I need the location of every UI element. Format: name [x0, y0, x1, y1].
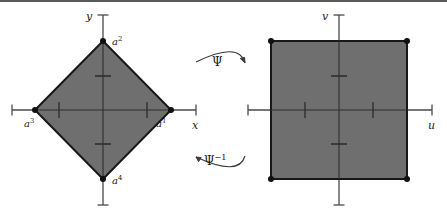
figure-canvas: y x a2 a1 a3 a4 v u Ψ Ψ−1 — [0, 0, 447, 218]
vertex-label-a3-sup: 3 — [30, 117, 34, 125]
vertex-dot-a1 — [168, 107, 174, 113]
vertex-label-a2-sup: 2 — [118, 35, 122, 43]
vertex-label-a1: a1 — [156, 118, 166, 129]
vertex-dot-a4 — [100, 176, 106, 182]
inverse-map-label-sup: −1 — [215, 152, 227, 162]
vertex-dot-a2 — [100, 38, 106, 44]
figure-vector-layer — [0, 0, 447, 218]
vertex-label-a1-sup: 1 — [162, 117, 166, 125]
inverse-map-label-base: Ψ — [204, 154, 215, 168]
axis-label-u: u — [428, 120, 435, 131]
vertex-dot-top-left — [268, 38, 274, 44]
vertex-label-a2: a2 — [112, 36, 122, 47]
vertex-dot-bottom-left — [268, 176, 274, 182]
vertex-dot-bottom-right — [404, 176, 410, 182]
vertex-label-a4: a4 — [112, 175, 122, 186]
axis-label-y: y — [86, 11, 92, 22]
forward-map-arrowhead — [240, 57, 245, 63]
vertex-dot-top-right — [404, 38, 410, 44]
axis-label-x: x — [192, 120, 198, 131]
vertex-dot-a3 — [32, 107, 38, 113]
forward-map-label: Ψ — [212, 54, 223, 68]
axis-label-v: v — [322, 11, 328, 22]
vertex-label-a4-sup: 4 — [118, 174, 122, 182]
vertex-label-a3: a3 — [24, 118, 34, 129]
inverse-map-label: Ψ−1 — [204, 153, 227, 167]
forward-map-label-base: Ψ — [212, 55, 223, 69]
left-plot-inner-ticks — [35, 41, 171, 179]
inverse-map-arrowhead — [196, 157, 201, 162]
